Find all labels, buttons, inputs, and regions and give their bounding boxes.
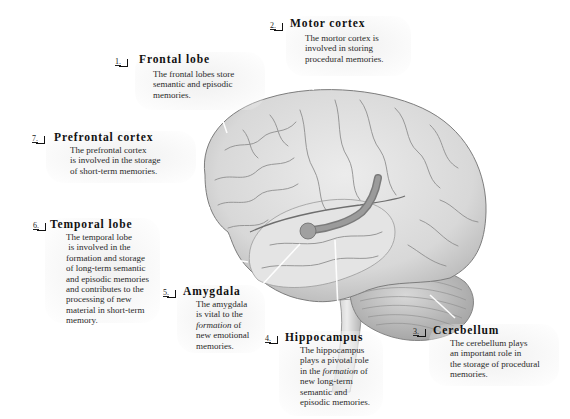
callout-hippocampus: 4. Hippocampus The hippocampus plays a p… [265,331,385,416]
cerebrum [204,90,486,302]
callout-motor-cortex: 2. Motor cortex The mortor cortex is inv… [270,16,420,76]
callout-prefrontal-cortex: 7. Prefrontal cortex The prefrontal cort… [32,131,202,183]
callout-title: Temporal lobe [50,218,133,230]
callout-title: Frontal lobe [139,53,210,65]
amygdala [300,223,316,239]
callout-temporal-lobe: 6. Temporal lobe The temporal lobe is in… [33,218,163,323]
brain-memory-diagram: 1. Frontal lobe The frontal lobes store … [0,0,570,419]
callout-title: Hippocampus [285,331,363,343]
callout-description: The prefrontal cortex is involved in the… [70,145,160,176]
callout-description: The amygdala is vital to the formation o… [196,299,249,351]
callout-description: The cerebellum plays an important role i… [450,338,540,380]
callout-title: Amygdala [183,285,241,297]
callout-description: The temporal lobe is involved in the for… [66,232,149,326]
callout-title: Prefrontal cortex [54,131,154,143]
callout-frontal-lobe: 1. Frontal lobe The frontal lobes store … [115,52,265,112]
callout-cerebellum: 3. Cerebellum The cerebellum plays an im… [413,324,563,386]
callout-amygdala: 5. Amygdala The amygdala is vital to the… [163,285,263,353]
callout-title: Motor cortex [290,17,365,29]
callout-title: Cerebellum [433,324,499,336]
callout-description: The hippocampus plays a pivotal role in … [300,345,370,407]
callout-description: The frontal lobes store semantic and epi… [153,69,234,100]
callout-description: The mortor cortex is involved in storing… [305,33,383,64]
